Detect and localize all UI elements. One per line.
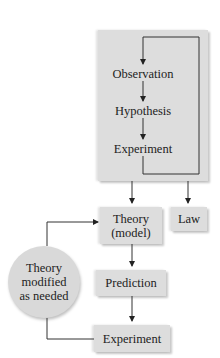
connector-arrows <box>0 0 220 358</box>
